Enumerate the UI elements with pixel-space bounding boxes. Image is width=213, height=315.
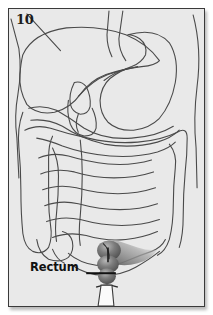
figure-number: 10 bbox=[16, 13, 34, 26]
illustration-frame: 10 Rectum bbox=[8, 8, 205, 307]
rectum-segment-lower bbox=[98, 268, 116, 284]
figure-root: 10 Rectum bbox=[0, 0, 213, 315]
anal-canal bbox=[98, 285, 114, 306]
rectum-label-text: Rectum bbox=[30, 262, 79, 274]
